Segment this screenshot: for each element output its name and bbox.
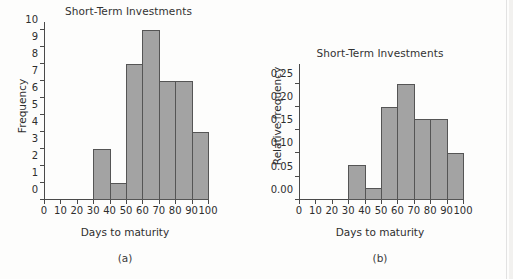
x-tick-label-a-10: 100 [198, 205, 217, 216]
x-tick-label-b-1: 10 [309, 205, 322, 216]
x-tick-a-6 [142, 200, 143, 204]
histogram-bar [348, 165, 365, 200]
figure-caption-a: (a) [20, 252, 230, 264]
x-tick-label-a-7: 70 [152, 205, 165, 216]
y-tick-label-a-1: 1 [32, 167, 38, 178]
histogram-bar [142, 30, 159, 200]
y-axis-title-a: Frequency [16, 66, 28, 146]
y-axis-title-b: Relative frequency [271, 60, 283, 172]
x-axis-title-a: Days to maturity [20, 226, 230, 238]
x-tick-a-10 [208, 200, 209, 204]
x-tick-b-8 [430, 200, 431, 204]
y-tick-a-9 [40, 46, 44, 47]
x-tick-b-3 [348, 200, 349, 204]
x-tick-label-b-0: 0 [296, 205, 302, 216]
y-tick-a-6 [40, 97, 44, 98]
x-tick-a-1 [60, 200, 61, 204]
x-tick-b-1 [315, 200, 316, 204]
x-tick-label-b-2: 20 [325, 205, 338, 216]
figure-a: Short-Term Investments 01234567891001020… [0, 0, 257, 279]
x-tick-label-b-4: 40 [358, 205, 371, 216]
histogram-bar [110, 183, 127, 200]
y-tick-b-1 [295, 176, 299, 177]
y-tick-label-b-0: 0.00 [271, 184, 293, 195]
histogram-bar [175, 81, 192, 200]
x-tick-a-8 [175, 200, 176, 204]
x-tick-label-a-4: 40 [103, 205, 116, 216]
x-tick-label-a-8: 80 [169, 205, 182, 216]
x-tick-label-a-2: 20 [70, 205, 83, 216]
y-tick-a-7 [40, 80, 44, 81]
y-tick-b-5 [295, 83, 299, 84]
y-tick-a-10 [40, 29, 44, 30]
y-tick-a-5 [40, 114, 44, 115]
y-tick-label-a-7: 7 [32, 65, 38, 76]
x-tick-label-b-7: 70 [407, 205, 420, 216]
histogram-bar [93, 149, 110, 200]
x-tick-label-a-1: 10 [54, 205, 67, 216]
x-tick-label-a-3: 30 [87, 205, 100, 216]
histogram-bar [447, 153, 464, 200]
y-tick-label-a-5: 5 [32, 99, 38, 110]
x-tick-b-7 [414, 200, 415, 204]
plot-area-a: 0123456789100102030405060708090100 [44, 30, 208, 200]
x-tick-a-0 [44, 200, 45, 204]
x-axis-title-b: Days to maturity [275, 226, 485, 238]
x-tick-label-b-5: 50 [375, 205, 388, 216]
y-tick-label-a-2: 2 [32, 150, 38, 161]
histogram-bar [192, 132, 209, 200]
x-tick-b-4 [365, 200, 366, 204]
y-tick-b-2 [295, 152, 299, 153]
histogram-bar [414, 119, 431, 200]
y-tick-b-4 [295, 106, 299, 107]
histogram-bar [365, 188, 382, 200]
figure-b: Short-Term Investments 0.000.050.100.150… [255, 0, 513, 279]
y-tick-label-a-9: 9 [32, 31, 38, 42]
x-tick-a-4 [110, 200, 111, 204]
x-tick-b-5 [381, 200, 382, 204]
x-tick-label-a-0: 0 [41, 205, 47, 216]
x-tick-a-5 [126, 200, 127, 204]
y-tick-label-a-4: 4 [32, 116, 38, 127]
histogram-bar [397, 84, 414, 200]
y-tick-a-2 [40, 165, 44, 166]
y-tick-a-4 [40, 131, 44, 132]
histogram-bar [159, 81, 176, 200]
plot-area-b: 0.000.050.100.150.200.250102030405060708… [299, 72, 463, 200]
y-tick-label-a-8: 8 [32, 48, 38, 59]
y-tick-a-8 [40, 63, 44, 64]
x-tick-label-a-6: 60 [136, 205, 149, 216]
x-tick-b-6 [397, 200, 398, 204]
x-tick-label-b-10: 100 [453, 205, 472, 216]
figure-page: Short-Term Investments 01234567891001020… [0, 0, 513, 279]
x-tick-b-10 [463, 200, 464, 204]
figure-caption-b: (b) [275, 252, 485, 264]
chart-title-a: Short-Term Investments [0, 5, 257, 17]
x-tick-label-b-6: 60 [391, 205, 404, 216]
histogram-bar [126, 64, 143, 200]
y-tick-label-a-10: 10 [25, 14, 38, 25]
histogram-bar [430, 119, 447, 200]
x-tick-a-2 [77, 200, 78, 204]
x-tick-b-2 [332, 200, 333, 204]
y-tick-a-1 [40, 182, 44, 183]
y-tick-a-3 [40, 148, 44, 149]
x-tick-b-9 [447, 200, 448, 204]
y-tick-label-a-0: 0 [32, 184, 38, 195]
x-tick-label-a-5: 50 [120, 205, 133, 216]
x-tick-b-0 [299, 200, 300, 204]
y-tick-label-a-3: 3 [32, 133, 38, 144]
histogram-bar [381, 107, 398, 200]
x-tick-label-a-9: 90 [185, 205, 198, 216]
x-tick-label-b-9: 90 [440, 205, 453, 216]
y-tick-label-a-6: 6 [32, 82, 38, 93]
chart-title-b: Short-Term Investments [255, 47, 505, 59]
x-tick-label-b-8: 80 [424, 205, 437, 216]
x-tick-label-b-3: 30 [342, 205, 355, 216]
y-tick-b-3 [295, 129, 299, 130]
y-axis-line-b [299, 64, 300, 200]
x-tick-a-9 [192, 200, 193, 204]
y-axis-line-a [44, 22, 45, 200]
x-tick-a-3 [93, 200, 94, 204]
x-tick-a-7 [159, 200, 160, 204]
